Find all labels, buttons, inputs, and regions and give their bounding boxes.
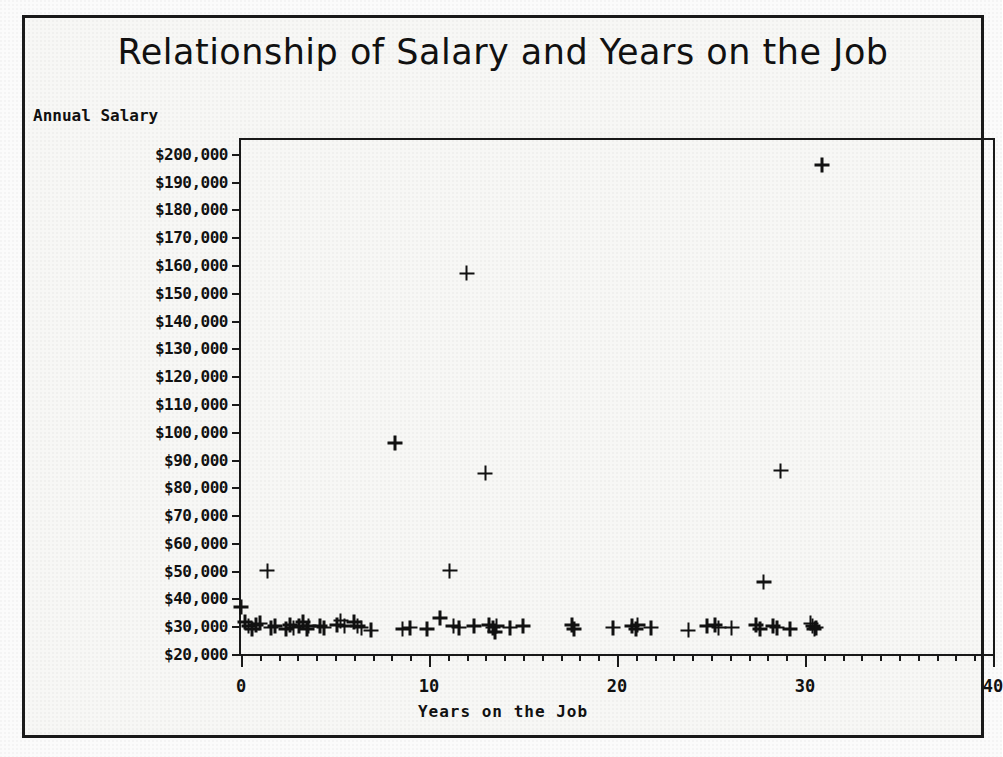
- data-point-marker: [459, 266, 474, 281]
- data-point-marker: [643, 620, 658, 635]
- x-tick-mark-minor: [448, 654, 450, 661]
- data-point-marker: [388, 435, 403, 450]
- y-tick-label: $130,000: [155, 339, 228, 358]
- data-point-marker: [452, 620, 467, 635]
- y-axis-title: Annual Salary: [33, 106, 158, 125]
- x-tick-mark-minor: [279, 654, 281, 661]
- data-point-marker: [312, 619, 327, 634]
- y-tick-mark: [232, 321, 241, 323]
- x-tick-mark-minor: [335, 654, 337, 661]
- x-tick-mark-minor: [354, 654, 356, 661]
- data-point-marker: [442, 563, 457, 578]
- x-tick-label: 30: [795, 676, 815, 696]
- data-point-marker: [681, 623, 696, 638]
- y-tick-label: $180,000: [155, 200, 228, 219]
- data-point-marker: [516, 619, 531, 634]
- y-tick-mark: [232, 376, 241, 378]
- data-point-marker: [807, 621, 822, 636]
- page-title: Relationship of Salary and Years on the …: [25, 32, 981, 72]
- x-tick-mark-minor: [561, 654, 563, 661]
- y-tick-label: $150,000: [155, 283, 228, 302]
- x-tick-mark-minor: [523, 654, 525, 661]
- y-tick-mark: [232, 182, 241, 184]
- data-point-marker: [350, 619, 365, 634]
- data-point-marker: [482, 617, 497, 632]
- y-tick-label: $170,000: [155, 228, 228, 247]
- data-point-marker: [292, 619, 307, 634]
- data-point-marker: [249, 617, 264, 632]
- x-tick-label: 20: [607, 676, 627, 696]
- x-tick-mark-minor: [316, 654, 318, 661]
- data-point-marker: [395, 621, 410, 636]
- x-tick-mark-minor: [861, 654, 863, 661]
- y-tick-mark: [232, 432, 241, 434]
- data-point-marker: [316, 620, 331, 635]
- x-tick-mark-minor: [636, 654, 638, 661]
- data-point-marker: [252, 616, 267, 631]
- x-tick-mark-minor: [297, 654, 299, 661]
- x-tick-label: 10: [419, 676, 439, 696]
- y-tick-mark: [232, 265, 241, 267]
- y-tick-label: $90,000: [164, 450, 228, 469]
- data-point-marker: [354, 620, 369, 635]
- x-tick-mark-minor: [542, 654, 544, 661]
- data-point-marker: [337, 619, 352, 634]
- data-point-marker: [805, 619, 820, 634]
- x-tick-mark-minor: [899, 654, 901, 661]
- data-point-marker: [296, 615, 311, 630]
- figure-frame: Relationship of Salary and Years on the …: [22, 15, 984, 738]
- data-point-marker: [279, 621, 294, 636]
- x-tick-mark-minor: [767, 654, 769, 661]
- x-tick-mark-minor: [391, 654, 393, 661]
- data-point-marker: [264, 620, 279, 635]
- x-tick-mark-major: [993, 654, 995, 667]
- data-point-marker: [299, 621, 314, 636]
- data-point-marker: [606, 620, 621, 635]
- x-tick-mark-minor: [843, 654, 845, 661]
- data-point-marker: [489, 619, 504, 634]
- data-point-marker: [446, 619, 461, 634]
- y-tick-label: $30,000: [164, 617, 228, 636]
- y-tick-mark: [232, 293, 241, 295]
- data-point-marker: [329, 617, 344, 632]
- x-tick-mark-minor: [880, 654, 882, 661]
- y-tick-label: $40,000: [164, 589, 228, 608]
- data-point-marker: [756, 574, 771, 589]
- data-point-marker: [566, 621, 581, 636]
- x-tick-mark-minor: [598, 654, 600, 661]
- y-tick-label: $50,000: [164, 561, 228, 580]
- data-point-marker: [245, 621, 260, 636]
- y-tick-label: $160,000: [155, 256, 228, 275]
- x-tick-mark-minor: [504, 654, 506, 661]
- y-tick-label: $200,000: [155, 144, 228, 163]
- x-tick-mark-minor: [673, 654, 675, 661]
- y-tick-label: $120,000: [155, 367, 228, 386]
- data-point-marker: [346, 615, 361, 630]
- x-tick-mark-minor: [937, 654, 939, 661]
- data-point-marker: [363, 623, 378, 638]
- x-tick-mark-minor: [955, 654, 957, 661]
- y-tick-mark: [232, 487, 241, 489]
- x-tick-mark-major: [429, 654, 431, 667]
- x-tick-mark-minor: [786, 654, 788, 661]
- y-tick-label: $110,000: [155, 394, 228, 413]
- y-tick-mark: [232, 598, 241, 600]
- data-point-marker: [773, 463, 788, 478]
- data-point-marker: [487, 624, 502, 639]
- y-tick-mark: [232, 654, 241, 656]
- data-point-marker: [625, 619, 640, 634]
- y-tick-label: $100,000: [155, 422, 228, 441]
- y-tick-mark: [232, 237, 241, 239]
- data-point-marker: [630, 617, 645, 632]
- data-point-marker: [433, 610, 448, 625]
- x-tick-mark-minor: [974, 654, 976, 661]
- x-tick-mark-minor: [824, 654, 826, 661]
- data-point-marker: [749, 617, 764, 632]
- data-point-marker: [420, 621, 435, 636]
- data-point-marker: [403, 620, 418, 635]
- data-point-marker: [241, 619, 256, 634]
- data-point-marker: [766, 619, 781, 634]
- y-tick-label: $70,000: [164, 506, 228, 525]
- y-tick-label: $20,000: [164, 645, 228, 664]
